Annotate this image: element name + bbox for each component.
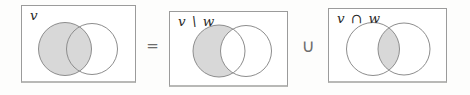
venn-diagram-v [22, 6, 135, 81]
equals-operator: = [136, 37, 169, 55]
set-identity-figure: v = v \ w ∪ v ∩ w [0, 0, 470, 95]
set-label-v-intersect-w: v ∩ w [337, 10, 381, 26]
set-label-v: v [30, 7, 39, 23]
venn-box-v: v [21, 5, 136, 83]
union-operator: ∪ [289, 35, 327, 56]
set-label-v-minus-w: v \ w [178, 13, 215, 29]
venn-box-v-intersect-w: v ∩ w [328, 8, 447, 83]
venn-box-v-minus-w: v \ w [169, 11, 288, 87]
